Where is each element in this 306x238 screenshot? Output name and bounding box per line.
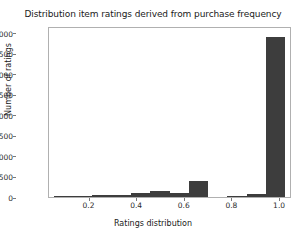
histogram-bar [189,181,208,197]
y-axis-tick-mark [13,136,16,137]
histogram-bar [92,195,111,197]
y-axis-tick-mark [13,115,16,116]
y-axis-tick-mark [13,74,16,75]
bars-layer [49,28,290,197]
y-axis-tick-mark [13,54,16,55]
histogram-bar [54,196,73,197]
x-axis-tick-mark [231,198,232,201]
y-axis-tick-label: 2500 [0,173,13,182]
x-axis-tick-mark [184,198,185,201]
x-axis-label: Ratings distribution [0,219,306,228]
y-axis-tick-label: 20000 [0,29,13,38]
page-title: Distribution item ratings derived from p… [0,9,306,19]
histogram-bar [112,195,131,197]
y-axis-tick-label: 7500 [0,132,13,141]
histogram-bar [227,196,246,197]
x-axis-tick-mark [279,198,280,201]
y-axis-tick-label: 10000 [0,111,13,120]
histogram-bar [170,193,189,197]
plot-area [48,27,291,198]
y-axis-tick-label: 15000 [0,70,13,79]
x-axis-tick-mark [89,198,90,201]
x-axis-tick-label: 0.2 [69,201,109,210]
y-axis-tick-mark [13,95,16,96]
y-axis-tick-label: 17500 [0,50,13,59]
histogram-bar [266,37,285,197]
y-axis-tick-label: 12500 [0,91,13,100]
y-axis-tick-mark [13,156,16,157]
x-axis-tick-label: 0.8 [211,201,251,210]
x-axis-tick-mark [136,198,137,201]
y-axis-tick-mark [13,33,16,34]
y-axis-tick-label: 5000 [0,152,13,161]
histogram-bar [73,196,92,197]
y-axis-tick-mark [13,198,16,199]
x-axis-tick-label: 0.6 [164,201,204,210]
y-axis-tick-mark [13,177,16,178]
x-axis-tick-label: 1.0 [259,201,299,210]
y-axis-tick-label: 0 [0,194,13,203]
x-axis-tick-label: 0.4 [116,201,156,210]
histogram-bar [150,191,169,197]
histogram-bar [131,193,150,197]
histogram-bar [247,194,266,197]
histogram-figure: Distribution item ratings derived from p… [0,0,306,238]
